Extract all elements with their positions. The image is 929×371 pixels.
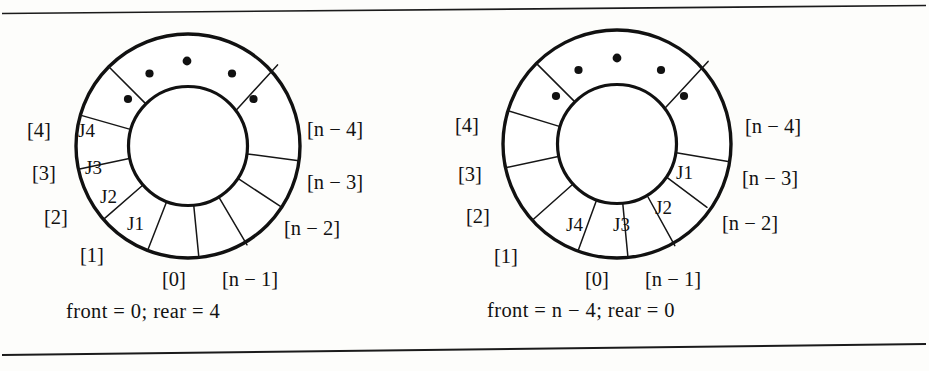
- right-index-label-n-minus-2: [n − 2]: [722, 212, 778, 234]
- right-ellipsis-dot-1: [552, 92, 560, 100]
- right-job-label-j1: J1: [676, 162, 693, 183]
- right-index-label-n-minus-1: [n − 1]: [645, 268, 701, 290]
- right-ellipsis-dot-4: [657, 66, 665, 74]
- left-ring-inner-circle: [129, 87, 248, 206]
- right-caption: front = n − 4; rear = 0: [487, 299, 675, 321]
- right-ellipsis-dot-3: [613, 54, 622, 63]
- left-ellipsis-dot-2: [145, 69, 153, 77]
- left-index-label-n-minus-3: [n − 3]: [307, 171, 363, 193]
- left-index-label-n-minus-2: [n − 2]: [284, 217, 340, 239]
- right-index-label-4: [4]: [455, 114, 479, 136]
- bottom-rule: [2, 344, 926, 355]
- left-job-label-j4: J4: [78, 120, 95, 141]
- left-job-label-j3: J3: [85, 157, 102, 178]
- left-ellipsis-dot-3: [183, 57, 192, 66]
- figure-container: J4 J3 J2 J1 [4] [3] [2] [1] [0] [n − 4] …: [0, 0, 929, 371]
- right-ellipsis-dot-2: [574, 66, 582, 74]
- left-ellipsis-dot-1: [124, 95, 132, 103]
- right-index-label-n-minus-3: [n − 3]: [742, 167, 798, 189]
- left-index-label-1: [1]: [80, 244, 104, 266]
- right-ring-diagram: J1 J2 J3 J4 [4] [3] [2] [1] [0] [n − 4] …: [455, 30, 801, 321]
- right-ring-inner-circle: [558, 85, 677, 204]
- left-caption: front = 0; rear = 4: [66, 300, 220, 322]
- right-index-label-n-minus-4: [n − 4]: [745, 115, 801, 137]
- right-index-label-3: [3]: [458, 163, 482, 185]
- left-index-label-3: [3]: [32, 162, 56, 184]
- left-index-label-2: [2]: [44, 206, 68, 228]
- left-ring-diagram: J4 J3 J2 J1 [4] [3] [2] [1] [0] [n − 4] …: [27, 34, 363, 322]
- right-job-label-j2: J2: [655, 197, 672, 218]
- circular-queue-figure: J4 J3 J2 J1 [4] [3] [2] [1] [0] [n − 4] …: [0, 0, 929, 371]
- right-index-label-0: [0]: [585, 268, 609, 290]
- left-job-label-j1: J1: [127, 213, 144, 234]
- right-index-label-1: [1]: [494, 245, 518, 267]
- right-job-label-j4: J4: [566, 214, 583, 235]
- top-rule: [2, 6, 926, 14]
- left-ellipsis-dot-5: [249, 95, 257, 103]
- left-index-label-n-minus-1: [n − 1]: [222, 268, 278, 290]
- right-index-label-2: [2]: [466, 205, 490, 227]
- left-job-label-j2: J2: [100, 186, 117, 207]
- left-ellipsis-dot-4: [228, 69, 236, 77]
- left-index-label-0: [0]: [162, 268, 186, 290]
- right-job-label-j3: J3: [613, 214, 630, 235]
- left-index-label-4: [4]: [27, 119, 51, 141]
- right-ellipsis-dot-5: [680, 92, 688, 100]
- left-index-label-n-minus-4: [n − 4]: [307, 118, 363, 140]
